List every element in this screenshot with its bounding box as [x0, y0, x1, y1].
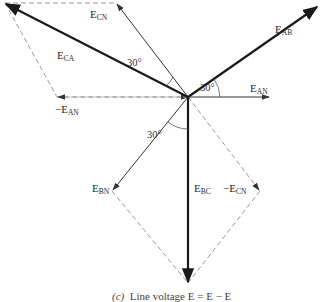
neg-e-cn-arrow — [188, 97, 259, 190]
arc-ca — [166, 77, 173, 86]
label-neg-e-cn: −ECN — [223, 183, 246, 196]
label-e-cn: ECN — [90, 9, 107, 22]
dash-bn-bc — [112, 191, 188, 283]
label-neg-e-an: −EAN — [55, 104, 79, 117]
dash-cn-bc — [188, 191, 260, 283]
label-e-ca: ECA — [57, 50, 74, 63]
label-e-bc: EBC — [194, 183, 211, 196]
arc-bc — [168, 122, 188, 129]
arc-ab — [214, 79, 220, 97]
e-bn-arrow — [113, 97, 188, 190]
e-cn-arrow — [117, 4, 188, 97]
construction-lines — [5, 3, 260, 283]
label-e-an: EAN — [250, 83, 268, 96]
angle-label-ca: 30° — [127, 58, 142, 69]
angle-label-ab: 30° — [200, 83, 215, 94]
figure-caption: (c) Line voltage E = E − E — [112, 290, 231, 302]
label-e-bn: EBN — [92, 183, 109, 196]
angle-label-bc: 30° — [147, 130, 162, 141]
label-e-ab: EAB — [275, 24, 292, 37]
